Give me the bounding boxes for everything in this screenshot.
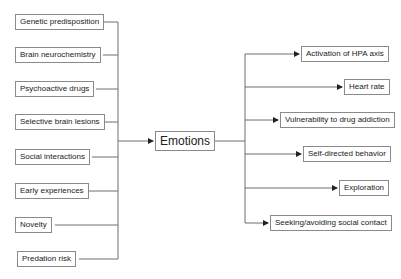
output-node-social-contact: Seeking/avoiding social contact [270,215,392,231]
input-node-selective-brain-lesions: Selective brain lesions [15,114,105,130]
output-node-drug-addiction-vulnerability: Vulnerability to drug addiction [280,112,395,128]
output-node-exploration: Exploration [339,180,389,196]
input-node-genetic-predisposition: Genetic predisposition [15,14,104,30]
input-node-brain-neurochemistry: Brain neurochemistry [15,47,101,63]
output-node-heart-rate: Heart rate [344,79,390,95]
output-node-self-directed-behavior: Self-directed behavior [303,146,391,162]
output-node-hpa-axis: Activation of HPA axis [301,46,389,62]
input-node-social-interactions: Social interactions [15,149,90,165]
input-node-early-experiences: Early experiences [15,183,89,199]
center-node-emotions: Emotions [155,131,215,151]
input-node-psychoactive-drugs: Psychoactive drugs [15,81,94,97]
input-node-novelty: Novelty [15,217,52,233]
input-node-predation-risk: Predation risk [17,251,76,267]
